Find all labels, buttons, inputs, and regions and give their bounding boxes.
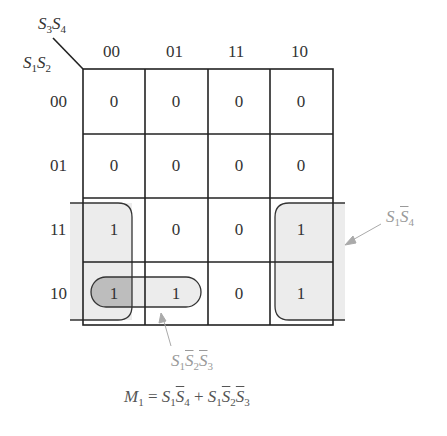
cell-10-11: 0	[208, 284, 270, 304]
cell-10-01: 1	[145, 284, 207, 304]
cell-10-00: 1	[83, 284, 145, 304]
cell-00-01: 0	[145, 92, 207, 112]
group-label-s1-s4bar: S1S4	[386, 207, 414, 228]
cell-01-00: 0	[83, 156, 145, 176]
kmap-grid	[0, 0, 447, 436]
row-variable-label: S1S2	[23, 53, 51, 74]
cell-01-11: 0	[208, 156, 270, 176]
col-header: 01	[166, 42, 183, 62]
group-label-s1-s2bar-s3bar: S1S2S3	[171, 351, 213, 372]
cell-01-10: 0	[270, 156, 332, 176]
cell-00-10: 0	[270, 92, 332, 112]
col-variable-label: S3S4	[38, 14, 66, 35]
row-header: 00	[50, 92, 67, 112]
cell-11-11: 0	[208, 220, 270, 240]
col-header: 00	[103, 42, 120, 62]
cell-00-11: 0	[208, 92, 270, 112]
row-header: 01	[50, 156, 67, 176]
row-header: 11	[50, 220, 66, 240]
col-header: 11	[228, 42, 244, 62]
col-header: 10	[291, 42, 308, 62]
row-header: 10	[50, 284, 67, 304]
cell-11-00: 1	[83, 220, 145, 240]
cell-11-01: 0	[145, 220, 207, 240]
cell-01-01: 0	[145, 156, 207, 176]
cell-11-10: 1	[270, 220, 332, 240]
cell-00-00: 0	[83, 92, 145, 112]
cell-10-10: 1	[270, 284, 332, 304]
boolean-equation: M1 = S1S4 + S1S2S3	[124, 387, 250, 408]
